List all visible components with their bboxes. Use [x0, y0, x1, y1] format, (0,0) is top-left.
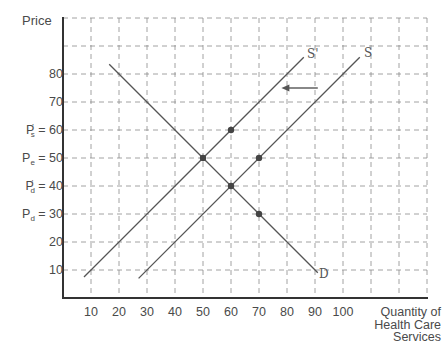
curve-label-s: S [364, 47, 372, 59]
x-axis-title: Quantity of Health Care Services [371, 306, 441, 344]
x-tick-label: 10 [84, 306, 98, 319]
axes [62, 17, 428, 298]
arrow-left-icon [281, 85, 289, 92]
equilibrium-dot [256, 211, 262, 217]
x-tick-label: 30 [140, 306, 154, 319]
curve-s [139, 57, 360, 278]
curve-s-prime [84, 57, 304, 277]
y-tick-label: Pe = 50 [22, 152, 63, 165]
curve-d [109, 64, 318, 273]
y-tick-label: 10 [49, 264, 63, 277]
x-tick-label: 20 [112, 306, 126, 319]
x-tick-label: 40 [168, 306, 182, 319]
x-tick-label: 80 [280, 306, 294, 319]
y-tick-label: 70 [49, 96, 63, 109]
equilibrium-dot [256, 155, 262, 161]
x-tick-label: 50 [196, 306, 210, 319]
y-tick-label: P's = 60 [26, 124, 63, 137]
curve-label-s-prime: S' [307, 48, 319, 60]
x-tick-label: 90 [308, 306, 322, 319]
x-tick-label: 60 [224, 306, 238, 319]
curve-label-d: D [319, 268, 329, 280]
grid [63, 18, 427, 298]
equilibrium-dot [228, 183, 234, 189]
y-tick-label: P'd = 40 [26, 180, 63, 193]
y-tick-label: Pd = 30 [22, 208, 63, 221]
equilibrium-dot [200, 155, 206, 161]
y-tick-label: 20 [49, 236, 63, 249]
x-tick-label: 70 [252, 306, 266, 319]
x-tick-label: 100 [333, 306, 354, 319]
equilibrium-dot [228, 127, 234, 133]
y-tick-label: 80 [49, 68, 63, 81]
y-axis-title: Price [22, 14, 52, 27]
curves [84, 57, 360, 278]
